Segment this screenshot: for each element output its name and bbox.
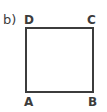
vertex-label-c: C — [87, 14, 96, 26]
geometry-figure: b) D C A B — [0, 0, 107, 112]
part-label: b) — [3, 13, 16, 26]
square-outline — [25, 27, 94, 93]
vertex-label-d: D — [24, 14, 34, 26]
vertex-label-a: A — [24, 96, 33, 108]
vertex-label-b: B — [88, 96, 97, 108]
